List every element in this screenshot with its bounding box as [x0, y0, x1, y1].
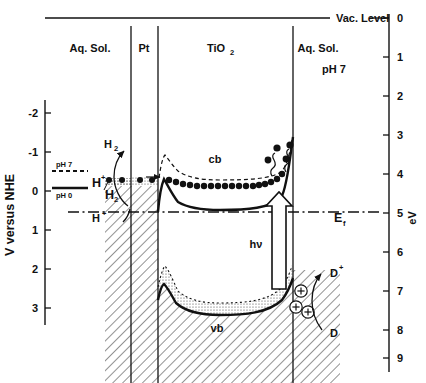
ev-tick-5: 5 — [397, 207, 403, 219]
vb-label: vb — [211, 322, 224, 334]
v-tick-neg2: -2 — [28, 107, 38, 119]
region-label-tio2: TiO — [207, 42, 226, 54]
v-tick-2: 2 — [32, 263, 38, 275]
ph7-label: pH 7 — [56, 160, 72, 169]
figure-root: Vac. Level 0 1 2 3 4 5 6 7 8 9 eV — [0, 0, 426, 383]
ev-tick-4: 4 — [397, 168, 404, 180]
donor-label: D — [330, 327, 338, 339]
hole-1 — [295, 285, 307, 297]
photon-label: hν — [250, 238, 263, 250]
ev-tick-3: 3 — [397, 129, 403, 141]
ev-tick-8: 8 — [397, 324, 403, 336]
ev-tick-7: 7 — [397, 285, 403, 297]
hplus-superscript: + — [101, 173, 106, 182]
h2-gas-label: H — [104, 138, 112, 150]
hplus-label: H — [92, 176, 101, 190]
v-axis-label: V versus NHE — [3, 174, 17, 256]
right-ev-axis: 0 1 2 3 4 5 6 7 8 9 eV — [383, 12, 418, 372]
donor-oxidized-superscript: + — [339, 263, 344, 272]
h2-label: H — [105, 188, 114, 202]
region-label-tio2-group: TiO 2 — [207, 42, 234, 57]
ev-tick-9: 9 — [397, 352, 403, 364]
ph0-label: pH 0 — [56, 191, 72, 200]
h2-subscript: 2 — [114, 195, 118, 204]
left-electrolyte-filled-band — [105, 178, 131, 383]
v-tick-0: 0 — [32, 185, 38, 197]
hplus-bottom-superscript: + — [102, 209, 107, 218]
pt-filled-band — [131, 177, 158, 383]
h2-gas-subscript: 2 — [114, 144, 118, 153]
ev-axis-label: eV — [406, 211, 418, 225]
conduction-band-dashed-dark — [159, 140, 292, 180]
hplus-bottom-label: H — [92, 212, 100, 224]
v-tick-3: 3 — [32, 302, 38, 314]
v-tick-1: 1 — [32, 224, 38, 236]
fermi-label: E — [334, 211, 342, 225]
region-label-pt: Pt — [139, 42, 150, 54]
v-tick-neg1: -1 — [28, 146, 38, 158]
ev-tick-1: 1 — [397, 51, 403, 63]
fermi-subscript: f — [343, 219, 346, 228]
region-label-ph7: pH 7 — [322, 63, 346, 75]
left-v-axis: -2 -1 0 1 2 3 V versus NHE — [3, 100, 51, 325]
region-label-aq-right: Aq. Sol. — [298, 42, 339, 54]
cb-label: cb — [209, 153, 222, 165]
region-label-tio2-subscript: 2 — [230, 48, 234, 57]
hole-2 — [290, 301, 302, 313]
ev-tick-0: 0 — [397, 12, 403, 24]
fermi-level-label-group: E f — [334, 211, 346, 228]
vacuum-level-label: Vac. Level — [336, 12, 389, 24]
band-diagram-svg: Vac. Level 0 1 2 3 4 5 6 7 8 9 eV — [0, 0, 426, 383]
donor-oxidized-label: D — [330, 267, 338, 279]
ev-tick-6: 6 — [397, 246, 403, 258]
ev-tick-2: 2 — [397, 90, 403, 102]
region-label-aq-left: Aq. Sol. — [70, 42, 111, 54]
photon-excitation-arrow — [266, 192, 292, 289]
